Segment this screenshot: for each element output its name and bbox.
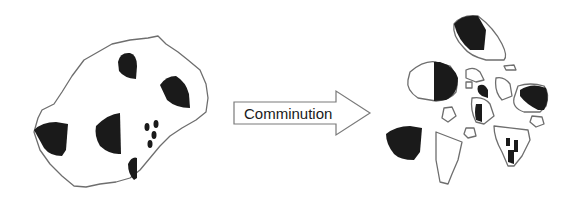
barren-fragment	[466, 82, 472, 88]
barren-fragment	[436, 132, 462, 184]
comminution-diagram: Comminution	[0, 0, 578, 199]
barren-fragment	[504, 65, 516, 70]
arrow-label: Comminution	[244, 105, 332, 122]
mineral-grain	[154, 120, 159, 128]
liberated-grain	[478, 85, 489, 98]
locked-fragment	[514, 84, 548, 112]
unbroken-ore-particle	[34, 36, 208, 187]
barren-fragment	[496, 78, 512, 100]
mineral-grain	[148, 140, 153, 148]
locked-fragment	[472, 98, 495, 124]
liberated-grain	[386, 126, 422, 160]
comminution-arrow: Comminution	[234, 91, 370, 135]
locked-fragment	[454, 16, 506, 60]
barren-fragment	[442, 107, 456, 122]
mineral-grain	[145, 123, 150, 131]
barren-fragment	[466, 68, 484, 82]
barren-fragment	[464, 128, 476, 138]
mineral-grain	[34, 122, 68, 156]
locked-fragment	[494, 126, 530, 166]
locked-fragment	[408, 62, 458, 101]
mineral-grain	[152, 131, 157, 139]
broken-fragments	[386, 16, 548, 184]
barren-fragment	[530, 116, 544, 127]
